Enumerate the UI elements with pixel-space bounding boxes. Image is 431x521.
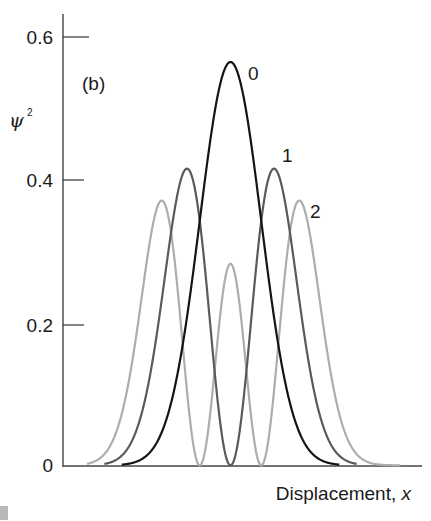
y-tick-label-0.2: 0.2	[27, 315, 53, 336]
curve-label-0: 0	[248, 63, 259, 84]
curve-label-1: 1	[282, 145, 293, 166]
curve-label-2: 2	[310, 201, 321, 222]
curve-psi2-squared	[87, 201, 400, 466]
x-axis-title: Displacement, x	[276, 483, 413, 504]
x-variable: x	[401, 483, 413, 504]
probability-density-chart: 0.6 0.4 0.2 0 ψ 2 (b) 0 1 2 Displacement…	[0, 0, 431, 521]
y-axis-label-superscript: 2	[27, 107, 33, 118]
y-tick-label-0: 0	[42, 455, 53, 476]
y-axis-label: ψ	[9, 109, 25, 131]
y-tick-label-0.6: 0.6	[27, 27, 53, 48]
scan-artifact	[0, 506, 8, 520]
panel-label: (b)	[82, 73, 105, 94]
y-tick-label-0.4: 0.4	[27, 170, 54, 191]
